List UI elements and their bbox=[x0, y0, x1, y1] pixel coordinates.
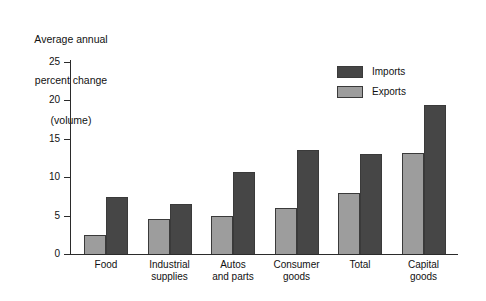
chart-legend: ImportsExports bbox=[337, 64, 406, 104]
y-axis-tick-label: 0 bbox=[32, 249, 60, 259]
bar-imports bbox=[424, 105, 446, 254]
x-axis-category-label: Capitalgoods bbox=[376, 259, 472, 283]
x-axis-line bbox=[70, 254, 458, 255]
bar-imports bbox=[106, 197, 128, 254]
legend-swatch bbox=[337, 66, 363, 78]
legend-label: Imports bbox=[372, 67, 405, 77]
legend-swatch bbox=[337, 86, 363, 98]
bar-chart: Average annual percent change (volume) 0… bbox=[0, 0, 486, 301]
bar-exports bbox=[338, 193, 360, 254]
y-axis-tick-label: 25 bbox=[32, 57, 60, 67]
y-axis-tick bbox=[64, 254, 70, 255]
bar-group bbox=[84, 59, 128, 254]
x-axis-category-label-line: Capital bbox=[376, 259, 472, 271]
bar-group bbox=[275, 59, 319, 254]
bar-imports bbox=[360, 154, 382, 254]
bar-imports bbox=[233, 172, 255, 254]
y-axis-tick bbox=[64, 100, 70, 101]
y-axis-tick bbox=[64, 139, 70, 140]
y-axis-tick-label: 10 bbox=[32, 172, 60, 182]
y-axis-line bbox=[70, 60, 71, 255]
chart-title-line-1: Average annual bbox=[8, 33, 134, 47]
bar-group bbox=[211, 59, 255, 254]
bar-exports bbox=[211, 216, 233, 254]
bar-exports bbox=[402, 153, 424, 254]
bar-group bbox=[148, 59, 192, 254]
y-axis-tick bbox=[64, 62, 70, 63]
y-axis-tick-label: 20 bbox=[32, 95, 60, 105]
bar-exports bbox=[148, 219, 170, 254]
bar-group bbox=[402, 59, 446, 254]
x-axis-category-label-line: goods bbox=[376, 271, 472, 283]
bar-exports bbox=[275, 208, 297, 254]
x-axis-category-label-line: goods bbox=[249, 271, 345, 283]
bar-imports bbox=[297, 150, 319, 254]
bar-imports bbox=[170, 204, 192, 254]
y-axis-tick bbox=[64, 216, 70, 217]
y-axis-tick bbox=[64, 177, 70, 178]
bar-exports bbox=[84, 235, 106, 254]
y-axis-tick-label: 5 bbox=[32, 211, 60, 221]
legend-item: Exports bbox=[337, 84, 406, 100]
legend-item: Imports bbox=[337, 64, 406, 80]
legend-label: Exports bbox=[372, 87, 406, 97]
y-axis-tick-label: 15 bbox=[32, 134, 60, 144]
